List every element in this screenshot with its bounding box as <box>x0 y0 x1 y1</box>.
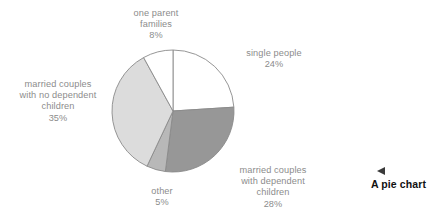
slice-label-married-couples-no-dependent-children: married couples with no dependent childr… <box>4 79 112 124</box>
slice-label-one-parent-families: one parent families 8% <box>108 8 204 42</box>
slice-label-married-couples-dependent-children: married couples with dependent children … <box>218 165 328 210</box>
triangle-left-icon <box>377 167 385 175</box>
figure-caption: A pie chart <box>371 167 439 190</box>
chart-area: one parent families 8% single people 24%… <box>0 0 439 224</box>
slice-label-other: other 5% <box>128 186 196 208</box>
caption-label: A pie chart <box>371 178 439 190</box>
pie-slice <box>165 107 234 172</box>
pie-slices <box>112 50 234 172</box>
pie-chart-figure: one parent families 8% single people 24%… <box>0 0 439 224</box>
slice-label-single-people: single people 24% <box>222 48 326 70</box>
